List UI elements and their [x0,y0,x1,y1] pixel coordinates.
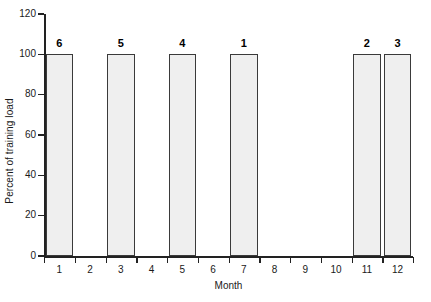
y-tick-label-120: 120 [0,9,36,19]
x-tick-label-2: 2 [75,264,105,276]
x-tick-boundary-2 [106,257,107,263]
x-tick-label-1: 1 [44,264,74,276]
y-tick-label-0: 0 [0,251,36,261]
y-tick-label-40: 40 [0,170,36,180]
bar-month-7[interactable] [230,54,258,256]
x-tick-boundary-12 [413,257,414,263]
y-tick-100 [38,54,44,55]
bar-annotation-month-1: 6 [39,37,79,49]
x-tick-label-9: 9 [290,264,320,276]
y-tick-40 [38,175,44,176]
x-tick-label-12: 12 [383,264,413,276]
y-tick-label-80: 80 [0,89,36,99]
x-axis-title: Month [44,280,413,291]
y-tick-60 [38,134,44,135]
x-tick-boundary-4 [167,257,168,263]
bar-annotation-month-12: 3 [378,37,418,49]
x-tick-label-11: 11 [352,264,382,276]
y-tick-label-60: 60 [0,130,36,140]
y-tick-20 [38,215,44,216]
x-tick-boundary-5 [198,257,199,263]
x-tick-boundary-9 [321,257,322,263]
bar-month-1[interactable] [46,54,74,256]
x-tick-label-7: 7 [229,264,259,276]
y-tick-label-100: 100 [0,49,36,59]
y-axis-title-text: Percent of training load [4,98,15,203]
x-tick-boundary-10 [352,257,353,263]
y-tick-120 [38,13,44,14]
x-tick-label-4: 4 [137,264,167,276]
bar-month-12[interactable] [384,54,412,256]
x-tick-label-5: 5 [167,264,197,276]
bar-annotation-month-5: 4 [162,37,202,49]
x-tick-boundary-3 [136,257,137,263]
y-tick-80 [38,94,44,95]
x-tick-boundary-7 [259,257,260,263]
bar-month-11[interactable] [353,54,381,256]
bar-annotation-month-3: 5 [101,37,141,49]
bar-annotation-month-7: 1 [224,37,264,49]
bar-month-3[interactable] [107,54,135,256]
x-tick-boundary-1 [75,257,76,263]
x-tick-label-3: 3 [106,264,136,276]
x-tick-boundary-8 [290,257,291,263]
x-tick-label-8: 8 [260,264,290,276]
bar-month-5[interactable] [169,54,197,256]
bar-chart-figure: Percent of training load 0 20 40 60 80 1… [0,0,431,302]
x-tick-label-10: 10 [321,264,351,276]
x-tick-boundary-6 [229,257,230,263]
x-tick-boundary-11 [382,257,383,263]
y-tick-label-20: 20 [0,210,36,220]
x-tick-boundary-0 [44,257,45,263]
x-tick-label-6: 6 [198,264,228,276]
